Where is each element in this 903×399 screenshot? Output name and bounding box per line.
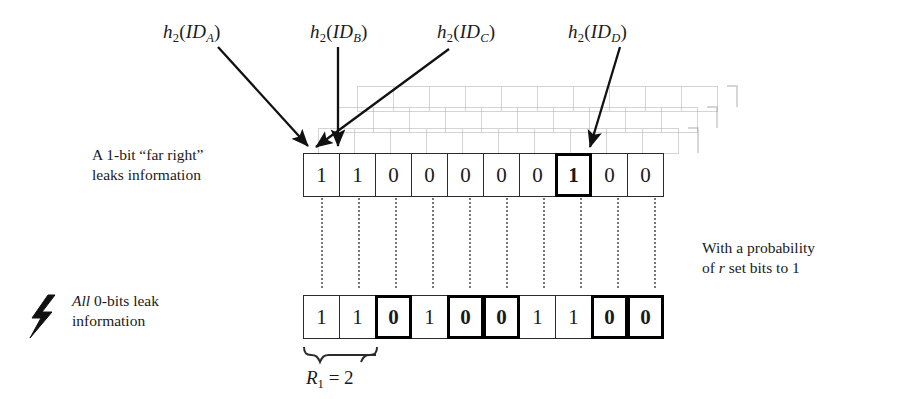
bit-cell[interactable]: 1 — [555, 295, 592, 339]
bottom-bit-array: 1 1 0 1 0 0 1 1 0 0 — [303, 295, 664, 339]
bit-cell-highlighted[interactable]: 0 — [627, 295, 664, 339]
caption-top-left-line1: A 1-bit “far right” — [92, 145, 203, 165]
caption-right-line2: of r set bits to 1 — [702, 258, 815, 278]
connector-line-2 — [358, 198, 360, 288]
hash-label-b: h2(IDB) — [310, 22, 368, 44]
bit-cell[interactable]: 1 — [519, 295, 556, 339]
connector-line-5 — [469, 198, 471, 288]
ghost-cell — [606, 128, 643, 154]
bit-cell[interactable]: 1 — [339, 295, 376, 339]
brace-label-value: 2 — [344, 367, 354, 388]
bit-cell-highlighted[interactable]: 0 — [591, 295, 628, 339]
caption-bottom-left-rest: 0-bits leak — [90, 292, 159, 309]
bit-cell[interactable]: 1 — [339, 153, 376, 197]
bit-cell[interactable]: 0 — [483, 153, 520, 197]
caption-bottom-left-line2: information — [72, 311, 159, 331]
bit-cell-highlighted[interactable]: 0 — [375, 295, 412, 339]
connector-line-8 — [580, 198, 582, 288]
ghost-cell — [318, 128, 355, 154]
ghost-cell — [426, 128, 463, 154]
ghost-cell — [570, 128, 607, 154]
bit-cell[interactable]: 1 — [411, 295, 448, 339]
ghost-cell — [462, 128, 499, 154]
ghost-cell — [354, 128, 391, 154]
ghost-cell — [534, 128, 571, 154]
caption-top-left-line2: leaks information — [92, 165, 203, 185]
caption-bottom-left: All 0-bits leak information — [72, 291, 159, 332]
bloom-filter-leakage-figure: h2(IDA) h2(IDB) h2(IDC) h2(IDD) A 1-bit … — [0, 0, 903, 399]
bit-cell[interactable]: 0 — [627, 153, 664, 197]
ghost-bit-row-3 — [318, 128, 679, 154]
bit-cell[interactable]: 0 — [447, 153, 484, 197]
ghost-cell — [498, 128, 535, 154]
hash-label-a: h2(IDA) — [163, 22, 221, 44]
top-bit-array: 1 1 0 0 0 0 0 1 0 0 — [303, 153, 664, 197]
bit-cell[interactable]: 0 — [519, 153, 556, 197]
bit-cell-highlighted[interactable]: 0 — [483, 295, 520, 339]
lightning-bolt-icon — [30, 295, 55, 338]
figure-overlay — [0, 0, 903, 399]
bit-cell[interactable]: 1 — [303, 153, 340, 197]
bit-cell[interactable]: 0 — [591, 153, 628, 197]
caption-bottom-left-emph: All — [72, 292, 90, 309]
ghost-cell — [390, 128, 427, 154]
connector-line-4 — [432, 198, 434, 288]
bit-cell[interactable]: 0 — [375, 153, 412, 197]
connector-line-9 — [617, 198, 619, 288]
bit-cell-highlighted[interactable]: 1 — [555, 153, 592, 197]
connector-line-10 — [654, 198, 656, 288]
caption-right: With a probability of r set bits to 1 — [702, 238, 815, 279]
brace-label-var: R — [306, 367, 318, 388]
brace-label: R1 = 2 — [306, 367, 354, 392]
caption-right-line1: With a probability — [702, 238, 815, 258]
caption-top-left: A 1-bit “far right” leaks information — [92, 145, 203, 186]
connector-line-1 — [321, 198, 323, 288]
bit-cell[interactable]: 1 — [303, 295, 340, 339]
bit-cell-highlighted[interactable]: 0 — [447, 295, 484, 339]
hash-label-c: h2(IDC) — [437, 22, 495, 44]
caption-bottom-left-line1: All 0-bits leak — [72, 291, 159, 311]
bit-cell[interactable]: 0 — [411, 153, 448, 197]
ghost-cell — [642, 128, 679, 154]
connector-line-6 — [506, 198, 508, 288]
caption-right-post: set bits to 1 — [725, 259, 800, 276]
hash-label-d: h2(IDD) — [568, 22, 627, 44]
arrow-hash-a — [218, 47, 308, 146]
caption-right-pre: of — [702, 259, 719, 276]
connector-line-3 — [395, 198, 397, 288]
brace-under-first-two-cells — [304, 347, 377, 362]
connector-line-7 — [543, 198, 545, 288]
brace-label-eq: = — [324, 367, 344, 388]
